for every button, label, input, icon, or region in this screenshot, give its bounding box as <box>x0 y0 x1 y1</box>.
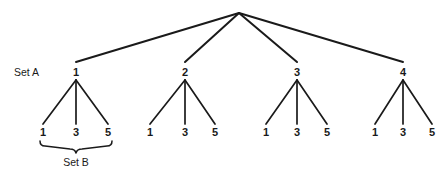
edge-3-to-leaf-3 <box>297 80 327 124</box>
edge-4-to-leaf-1 <box>375 80 403 124</box>
edge-1-to-leaf-1 <box>43 80 76 124</box>
leaf-label-1-1: 1 <box>40 126 46 138</box>
edge-2-to-leaf-3 <box>185 80 215 124</box>
root-edge-to-node-1 <box>76 13 239 62</box>
leaf-label-2-1: 1 <box>147 126 153 138</box>
leaf-label-4-3: 5 <box>429 126 435 138</box>
leaf-label-3-1: 1 <box>263 126 269 138</box>
set-b-brace-icon <box>40 141 112 153</box>
leaf-label-4-2: 3 <box>400 126 406 138</box>
leaf-label-2-3: 5 <box>212 126 218 138</box>
leaf-label-3-2: 3 <box>294 126 300 138</box>
edge-3-to-leaf-1 <box>266 80 297 124</box>
node-label-4: 4 <box>400 66 407 78</box>
branch-edge-group <box>43 80 432 124</box>
edge-2-to-leaf-1 <box>150 80 185 124</box>
root-edge-group <box>76 13 403 62</box>
set-a-label: Set A <box>14 66 39 78</box>
leaf-label-2-2: 3 <box>182 126 188 138</box>
leaf-label-1-2: 3 <box>73 126 79 138</box>
tree-diagram-svg: 1234 135135135135 Set A Set B <box>0 0 447 173</box>
node-label-1: 1 <box>73 66 79 78</box>
leaf-label-1-3: 5 <box>105 126 111 138</box>
edge-4-to-leaf-3 <box>403 80 432 124</box>
leaf-label-4-1: 1 <box>372 126 378 138</box>
tree-diagram-canvas: 1234 135135135135 Set A Set B <box>0 0 447 173</box>
set-b-label: Set B <box>63 156 89 168</box>
leaf-label-group: 135135135135 <box>40 126 435 138</box>
node-label-2: 2 <box>182 66 188 78</box>
edge-1-to-leaf-3 <box>76 80 108 124</box>
node-label-3: 3 <box>294 66 300 78</box>
root-edge-to-node-4 <box>239 13 403 62</box>
node-label-group: 1234 <box>73 66 407 78</box>
root-edge-to-node-3 <box>239 13 297 62</box>
leaf-label-3-3: 5 <box>324 126 330 138</box>
